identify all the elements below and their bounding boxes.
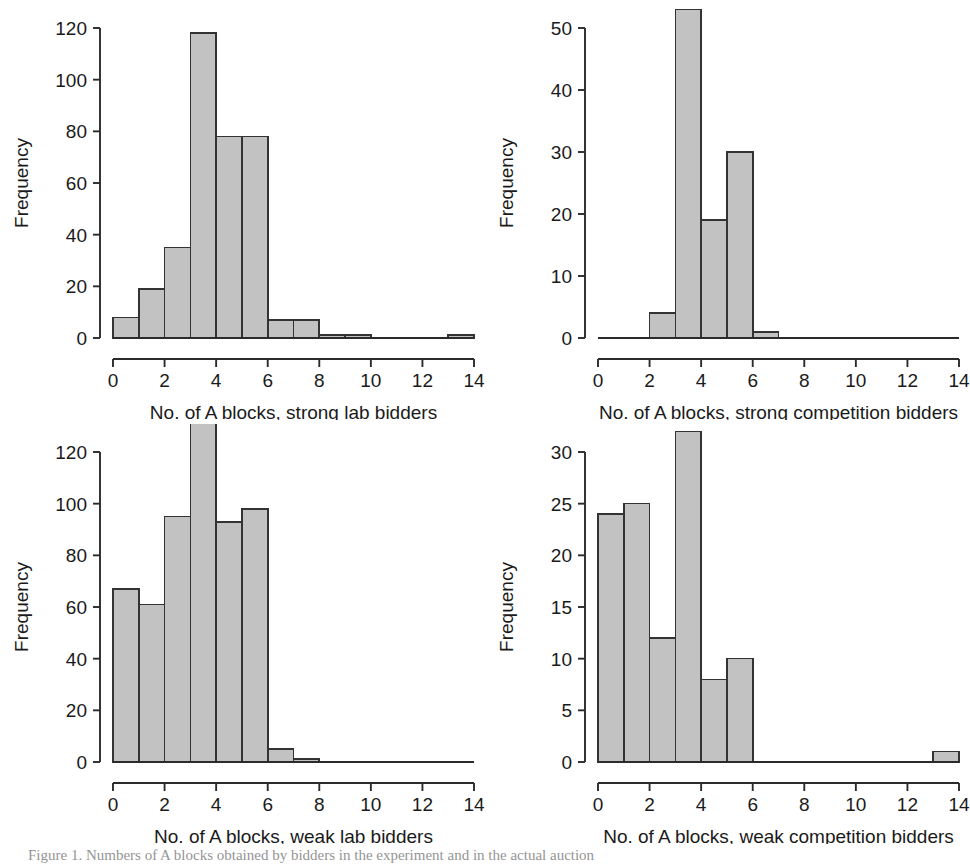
chart-panel-strong-competition-bidders: 0102030405002468101214No. of A blocks, s… [485, 0, 970, 420]
y-axis-title: Frequency [11, 138, 32, 228]
y-axis-tick-label: 40 [551, 80, 572, 101]
y-axis-tick-label: 0 [561, 328, 572, 349]
bars-group [113, 424, 319, 762]
x-axis-tick-label: 6 [262, 794, 273, 815]
y-axis-tick-label: 100 [55, 70, 87, 91]
bars-group [113, 33, 474, 338]
y-axis-tick-label: 60 [66, 173, 87, 194]
y-axis-tick-label: 60 [66, 597, 87, 618]
histogram-bar [216, 137, 242, 339]
y-axis-tick-label: 20 [551, 204, 572, 225]
x-axis-tick-label: 4 [211, 370, 222, 391]
x-axis-tick-label: 14 [463, 794, 485, 815]
x-axis-tick-label: 14 [948, 370, 970, 391]
x-axis-tick-label: 0 [108, 370, 119, 391]
bars-group [650, 9, 779, 338]
histogram-bar [598, 514, 624, 762]
y-axis-title: Frequency [496, 138, 517, 228]
x-axis-tick-label: 8 [799, 794, 810, 815]
histogram-bar [650, 638, 676, 762]
x-axis-tick-label: 12 [412, 370, 433, 391]
x-axis-tick-label: 8 [314, 370, 325, 391]
chart-svg: 02040608010012002468101214No. of A block… [0, 0, 485, 420]
histogram-bar [113, 589, 139, 762]
y-axis-tick-label: 20 [551, 545, 572, 566]
histogram-bar [139, 289, 165, 338]
x-axis-tick-label: 6 [747, 794, 758, 815]
x-axis-tick-label: 12 [897, 794, 918, 815]
x-axis-tick-label: 2 [644, 794, 655, 815]
figure-caption: Figure 1. Numbers of A blocks obtained b… [28, 847, 594, 864]
figure-caption-strip: Figure 1. Numbers of A blocks obtained b… [0, 845, 970, 864]
x-axis-tick-label: 4 [696, 370, 707, 391]
x-axis-tick-label: 10 [360, 370, 381, 391]
x-axis: 02468101214 [593, 783, 970, 815]
y-axis-tick-label: 40 [66, 649, 87, 670]
x-axis-tick-label: 2 [644, 370, 655, 391]
x-axis-tick-label: 2 [159, 794, 170, 815]
histogram-bar [216, 522, 242, 762]
x-axis-title: No. of A blocks, weak lab bidders [154, 826, 433, 844]
y-axis-tick-label: 40 [66, 225, 87, 246]
x-axis-tick-label: 6 [747, 370, 758, 391]
chart-panel-weak-competition-bidders: 05101520253002468101214No. of A blocks, … [485, 424, 970, 844]
y-axis: 020406080100120 [55, 18, 100, 349]
x-axis: 02468101214 [593, 359, 970, 391]
x-axis-tick-label: 0 [593, 370, 604, 391]
chart-panel-strong-lab-bidders: 02040608010012002468101214No. of A block… [0, 0, 485, 420]
x-axis-tick-label: 10 [845, 794, 866, 815]
y-axis-tick-label: 15 [551, 597, 572, 618]
x-axis: 02468101214 [108, 783, 485, 815]
y-axis: 020406080100120 [55, 442, 100, 773]
y-axis-tick-label: 0 [76, 752, 87, 773]
histogram-bar [139, 604, 165, 762]
y-axis-tick-label: 20 [66, 276, 87, 297]
histogram-bar [242, 137, 268, 339]
y-axis-tick-label: 20 [66, 700, 87, 721]
x-axis-tick-label: 14 [463, 370, 485, 391]
histogram-bar [701, 679, 727, 762]
x-axis: 02468101214 [108, 359, 485, 391]
histogram-bar [675, 9, 701, 338]
histogram-bar [190, 424, 216, 762]
histogram-bar [933, 752, 959, 762]
bars-group [598, 431, 959, 762]
histogram-bar [190, 33, 216, 338]
x-axis-tick-label: 8 [314, 794, 325, 815]
x-axis-tick-label: 10 [845, 370, 866, 391]
y-axis-tick-label: 0 [76, 328, 87, 349]
y-axis-tick-label: 120 [55, 442, 87, 463]
x-axis-title: No. of A blocks, weak competition bidder… [603, 826, 954, 844]
x-axis-title: No. of A blocks, strong lab bidders [150, 402, 437, 420]
chart-svg: 05101520253002468101214No. of A blocks, … [485, 424, 970, 844]
x-axis-tick-label: 4 [696, 794, 707, 815]
histogram-bar [268, 749, 294, 762]
y-axis-tick-label: 30 [551, 442, 572, 463]
histogram-figure: 02040608010012002468101214No. of A block… [0, 0, 970, 864]
histogram-bar [294, 320, 320, 338]
x-axis-tick-label: 14 [948, 794, 970, 815]
y-axis-tick-label: 100 [55, 494, 87, 515]
histogram-bar [701, 220, 727, 338]
x-axis-tick-label: 4 [211, 794, 222, 815]
histogram-bar [113, 317, 139, 338]
y-axis-tick-label: 120 [55, 18, 87, 39]
y-axis: 051015202530 [551, 442, 585, 773]
x-axis-title: No. of A blocks, strong competition bidd… [599, 402, 958, 420]
y-axis-tick-label: 0 [561, 752, 572, 773]
y-axis-title: Frequency [11, 562, 32, 652]
y-axis-tick-label: 50 [551, 18, 572, 39]
histogram-bar [675, 431, 701, 762]
histogram-bar [268, 320, 294, 338]
y-axis-tick-label: 10 [551, 266, 572, 287]
y-axis-title: Frequency [496, 562, 517, 652]
histogram-bar [165, 248, 191, 338]
y-axis-tick-label: 80 [66, 121, 87, 142]
chart-svg: 0102030405002468101214No. of A blocks, s… [485, 0, 970, 420]
y-axis-tick-label: 30 [551, 142, 572, 163]
histogram-bar [242, 509, 268, 762]
y-axis-tick-label: 10 [551, 649, 572, 670]
y-axis-tick-label: 80 [66, 545, 87, 566]
chart-svg: 02040608010012002468101214No. of A block… [0, 424, 485, 844]
histogram-bar [650, 313, 676, 338]
